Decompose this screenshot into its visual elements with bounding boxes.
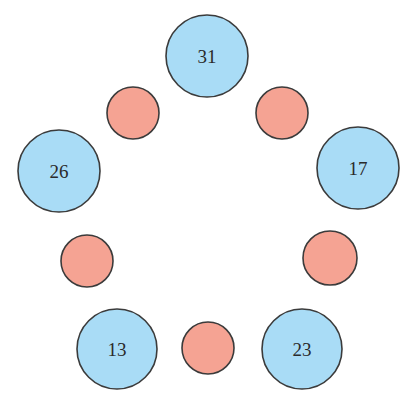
circle-number-label: 17 — [349, 158, 368, 179]
blue-circle-right: 17 — [317, 127, 399, 209]
red-circle-mid-right — [303, 231, 357, 285]
blue-circle-bottom-left: 13 — [77, 309, 157, 389]
red-circle-mid-left — [61, 235, 113, 287]
circle-number-label: 31 — [198, 46, 217, 67]
circle-number-label: 23 — [293, 339, 312, 360]
circle-number-label: 13 — [108, 339, 127, 360]
circle-number-label: 26 — [50, 161, 69, 182]
blue-circle-left: 26 — [18, 130, 100, 212]
red-circle-top-right — [256, 87, 308, 139]
red-circle-bottom — [182, 322, 234, 374]
blue-circle-bottom-right: 23 — [262, 309, 342, 389]
red-circle-top-left — [107, 87, 159, 139]
circle-diagram: 3126171323 — [0, 0, 413, 411]
blue-circle-top: 31 — [166, 15, 248, 97]
